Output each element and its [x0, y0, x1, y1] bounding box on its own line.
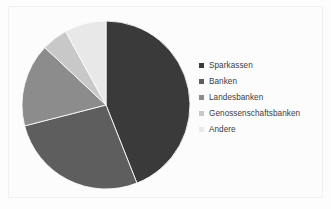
legend-swatch-icon: [199, 111, 204, 116]
legend-item[interactable]: Banken: [199, 74, 327, 89]
legend-item[interactable]: Andere: [199, 122, 327, 137]
chart-legend: SparkassenBankenLandesbankenGenossenscha…: [199, 58, 327, 138]
legend-item[interactable]: Sparkassen: [199, 58, 327, 73]
legend-item-label: Andere: [209, 124, 236, 135]
legend-swatch-icon: [199, 79, 204, 84]
legend-swatch-icon: [199, 63, 204, 68]
pie-svg: [22, 16, 190, 194]
legend-item-label: Landesbanken: [209, 92, 263, 103]
legend-swatch-icon: [199, 95, 204, 100]
legend-item-label: Sparkassen: [209, 60, 253, 71]
legend-item[interactable]: Genossenschaftsbanken: [199, 106, 327, 121]
legend-swatch-icon: [199, 127, 204, 132]
pie-chart-figure: SparkassenBankenLandesbankenGenossenscha…: [0, 0, 331, 209]
pie-chart: [22, 16, 190, 194]
pie-slice-group: [22, 21, 190, 189]
legend-item-label: Banken: [209, 76, 237, 87]
legend-item-label: Genossenschaftsbanken: [209, 108, 300, 119]
legend-item[interactable]: Landesbanken: [199, 90, 327, 105]
